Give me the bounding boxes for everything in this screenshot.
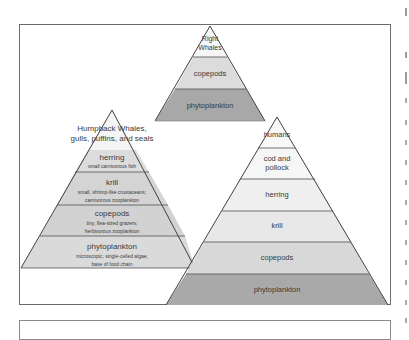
right-whales-copepods-label: copepods: [194, 69, 227, 78]
humpback-krill-desc-2: carnivorous zooplankton: [85, 197, 139, 203]
humpback-herring-desc: small carnivorous fish: [88, 163, 136, 169]
human-chain-pyramid: humans cod and pollock herring krill cop…: [166, 117, 388, 305]
human-chain-krill-label: krill: [271, 221, 283, 230]
humpback-pyramid: Humpback Whales, gulls, puffins, and sea…: [21, 110, 195, 268]
humpback-copepods-label: copepods: [95, 209, 130, 218]
right-whales-label-line2: Whales: [198, 44, 222, 51]
right-whales-phytoplankton-label: phytoplankton: [187, 101, 234, 110]
human-chain-copepods-label: copepods: [261, 253, 294, 262]
right-whales-pyramid: Right Whales copepods phytoplankton: [155, 26, 265, 121]
human-chain-herring-label: herring: [265, 190, 288, 199]
humpback-phytoplankton-desc-1: microscopic, single-celled algae;: [76, 253, 148, 259]
humpback-phytoplankton-label: phytoplankton: [87, 242, 137, 251]
humpback-copepods-desc-1: tiny, flea-sized grazers;: [86, 220, 137, 226]
humpback-phytoplankton-desc-2: base of food chain: [92, 261, 133, 267]
humpback-title-line2: gulls, puffins, and seals: [70, 134, 153, 143]
humpback-copepods-desc-2: herbivorous zooplankton: [85, 228, 140, 234]
human-chain-cod-label-2: pollock: [265, 163, 289, 172]
human-chain-phytoplankton-label: phytoplankton: [254, 285, 301, 294]
humpback-krill-desc-1: small, shrimp-like crustaceans;: [78, 189, 146, 195]
humpback-herring-label: herring: [100, 153, 125, 162]
humpback-title-line1: Humpback Whales,: [77, 124, 146, 133]
human-chain-humans-label: humans: [264, 130, 291, 139]
right-whales-label-line1: Right: [202, 35, 218, 43]
human-chain-cod-label-1: cod and: [264, 154, 291, 163]
humpback-krill-label: krill: [106, 178, 118, 187]
page-edge-marks: [405, 8, 407, 323]
